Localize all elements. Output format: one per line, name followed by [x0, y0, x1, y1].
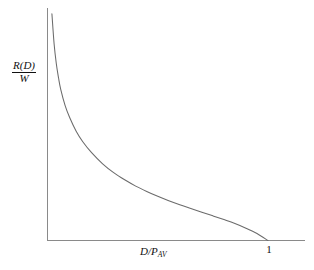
x-axis-label-subscript: AV: [158, 250, 167, 259]
x-axis-label: D/PAV: [140, 245, 167, 259]
y-axis-label: R(D) W: [7, 60, 41, 84]
x-tick-label-1: 1: [262, 243, 276, 255]
figure-container: R(D) W D/PAV 1: [0, 0, 314, 270]
rate-distortion-plot: [0, 0, 314, 270]
x-axis-label-main: D/P: [140, 245, 158, 257]
data-curve: [52, 14, 268, 241]
y-axis-label-denominator: W: [7, 73, 41, 85]
y-axis-label-numerator: R(D): [7, 60, 41, 72]
